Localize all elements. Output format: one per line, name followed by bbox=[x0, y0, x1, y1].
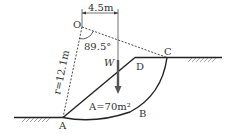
label-A: A bbox=[58, 120, 67, 131]
weight-arrow-head bbox=[115, 86, 122, 94]
label-dimension: 4.5m bbox=[88, 2, 114, 13]
dim-arrow-left bbox=[82, 12, 86, 15]
label-area: A=70m² bbox=[88, 101, 131, 112]
label-W: W bbox=[104, 57, 115, 68]
label-D: D bbox=[136, 61, 144, 72]
label-B: B bbox=[139, 108, 146, 119]
slope-stability-figure: 4.5m O 89.5° C D W r=12.1m A=70m² A B bbox=[0, 0, 231, 135]
label-O: O bbox=[73, 19, 81, 30]
label-C: C bbox=[164, 46, 172, 57]
ground-hatch-right bbox=[188, 58, 216, 62]
label-radius: r=12.1m bbox=[51, 49, 71, 96]
ground-hatch-left bbox=[22, 118, 50, 122]
label-angle: 89.5° bbox=[84, 41, 111, 52]
dim-arrow-right bbox=[114, 12, 118, 15]
angle-arc bbox=[80, 31, 94, 39]
